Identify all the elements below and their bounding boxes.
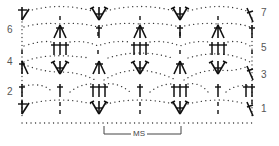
row-label-5: 5 xyxy=(261,43,267,53)
row-4 xyxy=(19,61,227,74)
row-label-6: 6 xyxy=(7,25,13,35)
row-label-4: 4 xyxy=(7,57,13,67)
row-label-1: 1 xyxy=(261,104,267,114)
row-label-2: 2 xyxy=(7,87,13,97)
row-label-3: 3 xyxy=(261,70,267,80)
row-label-7: 7 xyxy=(261,8,267,18)
row-2 xyxy=(19,84,255,97)
repeat-label: MS xyxy=(131,130,147,138)
crochet-chart xyxy=(0,0,279,146)
row-6 xyxy=(54,25,255,38)
